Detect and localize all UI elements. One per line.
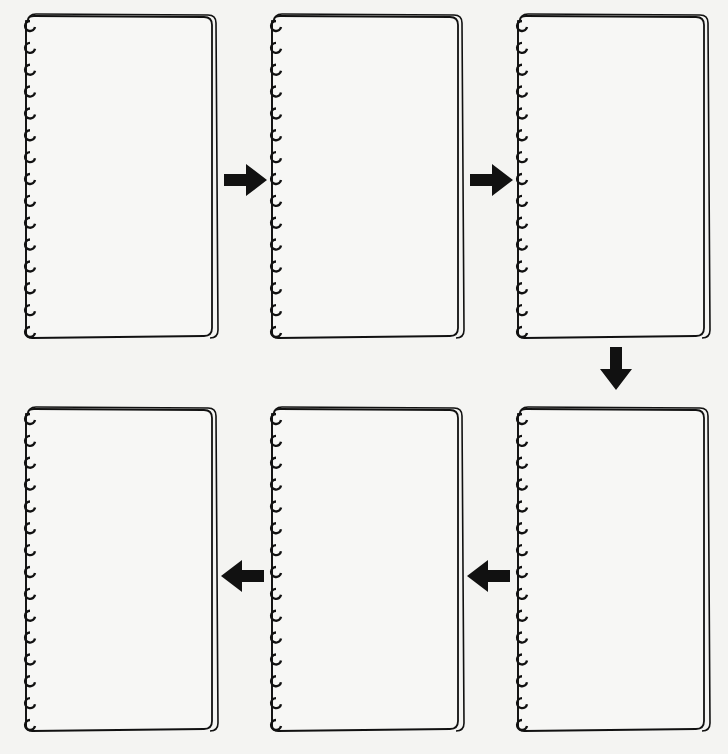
notebook-page-6	[22, 405, 222, 735]
notebook-page-3	[514, 12, 714, 342]
notebook-page-5	[268, 405, 468, 735]
arrow-left-icon	[220, 555, 264, 593]
notebook-page-1	[22, 12, 222, 342]
arrow-right-icon	[224, 163, 268, 201]
arrow-right-icon	[470, 163, 514, 201]
arrow-down-icon	[595, 347, 633, 391]
notebook-page-2	[268, 12, 468, 342]
notebook-page-4	[514, 405, 714, 735]
arrow-left-icon	[466, 555, 510, 593]
